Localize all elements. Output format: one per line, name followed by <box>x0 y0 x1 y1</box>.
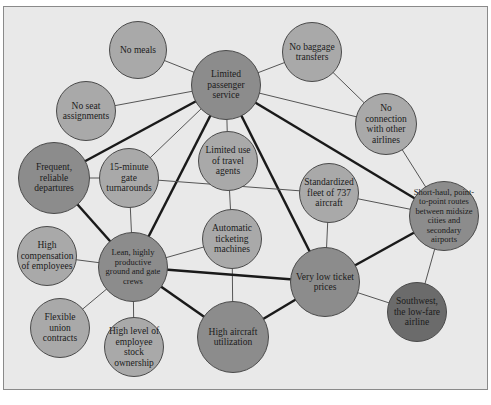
node-label: No baggage transfers <box>286 42 338 63</box>
node-lean: Lean, highly productive ground and gate … <box>98 232 168 302</box>
node-sf: Standardized fleet of 737 aircraft <box>299 163 359 223</box>
node-label: Lean, highly productive ground and gate … <box>102 248 164 286</box>
node-label: Short-haul, point-to-point routes betwee… <box>413 188 475 245</box>
node-nsa: No seat assignments <box>56 81 116 141</box>
node-nbt: No baggage transfers <box>282 22 342 82</box>
node-sh: Short-haul, point-to-point routes betwee… <box>409 181 479 251</box>
node-nc: No connection with other airlines <box>355 93 417 155</box>
node-vlt: Very low ticket prices <box>290 247 360 317</box>
node-label: Frequent, reliable departures <box>22 162 86 194</box>
node-label: No connection with other airlines <box>359 103 413 145</box>
node-lta: Limited use of travel agents <box>198 131 258 191</box>
node-atm: Automatic ticketing machines <box>202 209 262 269</box>
node-fuc: Flexible union contracts <box>30 298 90 358</box>
node-label: 15-minute gate turnarounds <box>103 162 155 194</box>
node-label: Limited use of travel agents <box>202 145 254 177</box>
node-label: High compensation of employees <box>21 240 74 272</box>
node-label: Flexible union contracts <box>34 312 86 344</box>
node-label: Standardized fleet of 737 aircraft <box>303 177 355 209</box>
node-label: No seat assignments <box>60 101 112 122</box>
node-label: Very low ticket prices <box>294 272 356 293</box>
node-sw: Southwest, the low-fare airline <box>387 282 447 342</box>
node-label: Limited passenger service <box>195 69 257 101</box>
node-label: Automatic ticketing machines <box>206 223 258 255</box>
node-gt: 15-minute gate turnarounds <box>99 148 159 208</box>
node-hc: High compensation of employees <box>17 226 77 286</box>
node-label: High aircraft utilization <box>201 327 265 348</box>
node-nm: No meals <box>109 21 167 79</box>
node-hes: High level of employee stock ownership <box>104 317 164 377</box>
node-label: High level of employee stock ownership <box>108 326 160 368</box>
node-frd: Frequent, reliable departures <box>18 142 90 214</box>
node-hau: High aircraft utilization <box>197 301 269 373</box>
node-label: No meals <box>120 45 156 56</box>
node-lps: Limited passenger service <box>191 50 261 120</box>
node-label: Southwest, the low-fare airline <box>391 296 443 328</box>
